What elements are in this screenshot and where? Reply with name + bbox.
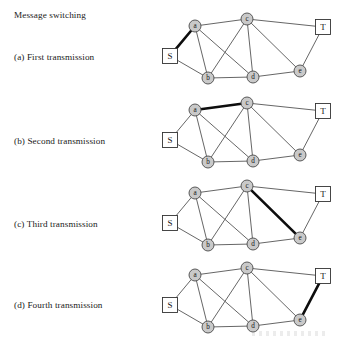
edge — [199, 114, 249, 158]
edge — [196, 115, 206, 156]
edge — [199, 279, 249, 323]
node-label: b — [206, 323, 210, 331]
edge — [211, 191, 244, 241]
node-c: c — [241, 13, 253, 25]
node-label: T — [320, 189, 326, 199]
edge — [213, 244, 247, 245]
node-b: b — [202, 156, 214, 168]
edge — [258, 156, 294, 161]
network-panel-c: SabcdeT — [150, 171, 346, 259]
panel-caption-d: (d) Fourth transmission — [14, 300, 103, 311]
node-e: e — [294, 65, 306, 77]
edge — [175, 59, 203, 75]
edge — [252, 104, 317, 111]
node-label: d — [251, 240, 255, 248]
edge — [258, 321, 294, 326]
node-c: c — [241, 180, 253, 192]
node-d: d — [247, 155, 259, 167]
node-a: a — [189, 104, 201, 116]
node-label: d — [251, 157, 255, 165]
node-e: e — [294, 149, 306, 161]
edge — [248, 273, 253, 320]
node-label: d — [251, 73, 255, 81]
node-label: b — [206, 74, 210, 82]
edge — [196, 31, 206, 72]
node-d: d — [247, 71, 259, 83]
node-T: T — [316, 20, 331, 35]
node-label: c — [245, 264, 248, 272]
node-c: c — [241, 97, 253, 109]
node-d: d — [247, 238, 259, 250]
node-label: S — [167, 51, 172, 61]
node-label: T — [320, 271, 326, 281]
node-c: c — [241, 262, 253, 274]
node-b: b — [202, 72, 214, 84]
node-label: b — [206, 158, 210, 166]
node-T: T — [316, 269, 331, 284]
edge — [303, 116, 321, 150]
node-label: b — [206, 241, 210, 249]
panel-caption-c: (c) Third transmission — [14, 219, 98, 230]
network-panel-a: SabcdeT — [150, 4, 346, 92]
node-b: b — [202, 321, 214, 333]
node-a: a — [189, 187, 201, 199]
edge — [199, 197, 249, 241]
edge — [200, 269, 241, 275]
node-label: T — [320, 22, 326, 32]
edge — [251, 23, 296, 67]
message-switching-figure: Message switching (a) First transmission… — [0, 0, 346, 342]
edge — [199, 30, 249, 74]
edge — [251, 272, 296, 316]
highlighted-edge — [251, 190, 296, 234]
node-T: T — [316, 187, 331, 202]
page-edge-artifact — [252, 331, 326, 336]
edge — [252, 20, 317, 27]
edge — [248, 24, 253, 71]
highlighted-edge — [303, 281, 321, 315]
edge — [211, 24, 244, 74]
node-label: T — [320, 106, 326, 116]
highlighted-edge — [200, 104, 241, 110]
edge — [248, 191, 253, 238]
edge — [213, 77, 247, 78]
edge — [175, 226, 203, 242]
edge — [196, 198, 206, 239]
node-label: e — [298, 151, 301, 159]
edge — [248, 108, 253, 155]
panel-caption-b: (b) Second transmission — [14, 136, 105, 147]
node-label: e — [298, 316, 301, 324]
edge — [211, 108, 244, 158]
edge — [258, 239, 294, 244]
node-e: e — [294, 232, 306, 244]
node-a: a — [189, 269, 201, 281]
node-label: c — [245, 99, 248, 107]
node-S: S — [163, 298, 178, 313]
node-a: a — [189, 20, 201, 32]
node-label: c — [245, 15, 248, 23]
panel-caption-a: (a) First transmission — [14, 52, 94, 63]
figure-title: Message switching — [14, 10, 86, 21]
edge — [213, 161, 247, 162]
edge — [252, 187, 317, 194]
edge — [252, 269, 317, 276]
edge — [213, 326, 247, 327]
network-panel-d: SabcdeT — [150, 253, 346, 341]
node-T: T — [316, 104, 331, 119]
node-label: S — [167, 135, 172, 145]
node-label: e — [298, 67, 301, 75]
edge — [200, 187, 241, 193]
node-e: e — [294, 314, 306, 326]
edge — [303, 199, 321, 233]
node-label: c — [245, 182, 248, 190]
edge — [251, 107, 296, 151]
node-S: S — [163, 133, 178, 148]
edge — [175, 143, 203, 159]
edge — [200, 20, 241, 26]
node-label: S — [167, 218, 172, 228]
edge — [303, 32, 321, 66]
edge — [175, 308, 203, 324]
node-label: S — [167, 300, 172, 310]
edge — [258, 72, 294, 77]
node-label: e — [298, 234, 301, 242]
edge — [196, 280, 206, 321]
